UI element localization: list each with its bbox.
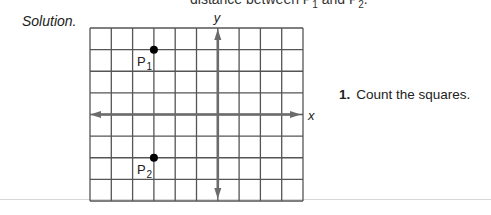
step-number: 1.: [339, 87, 350, 102]
point-2-marker: [150, 154, 158, 162]
x-axis-left-arrow-icon: [90, 111, 101, 118]
point-1-label: P1: [137, 54, 153, 72]
step-1: 1.Count the squares.: [339, 87, 470, 102]
points: P1P2: [137, 46, 158, 180]
y-axis-label: y: [213, 10, 222, 25]
coordinate-grid-figure: xy P1P2: [0, 0, 491, 215]
x-axis-right-arrow-icon: [290, 111, 301, 118]
point-1-marker: [150, 46, 158, 54]
y-axis-up-arrow-icon: [214, 29, 221, 40]
point-2-label: P2: [137, 162, 153, 180]
step-text: Count the squares.: [356, 87, 470, 102]
x-axis-label: x: [307, 108, 315, 123]
y-axis-down-arrow-icon: [214, 188, 221, 199]
